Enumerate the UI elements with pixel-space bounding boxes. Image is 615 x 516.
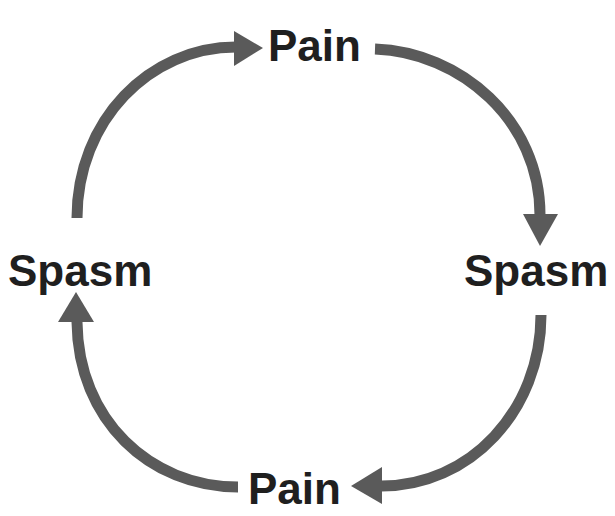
node-pain-top: Pain <box>268 24 361 68</box>
node-spasm-right: Spasm <box>464 249 608 293</box>
arrow-pain-to-spasm-left <box>58 292 238 487</box>
pain-spasm-cycle-diagram: Pain Spasm Pain Spasm <box>0 0 615 516</box>
arrow-spasm-to-pain-bottom <box>351 315 541 504</box>
node-spasm-left: Spasm <box>8 249 152 293</box>
node-pain-bottom: Pain <box>248 467 341 511</box>
arrow-pain-to-spasm-right <box>375 49 558 246</box>
arrow-spasm-to-pain-top <box>77 31 263 218</box>
